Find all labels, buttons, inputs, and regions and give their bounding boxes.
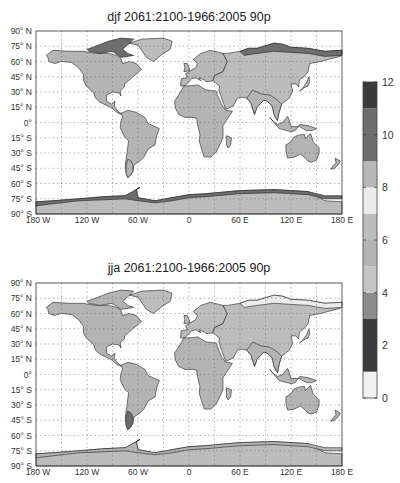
colorbar-band xyxy=(363,240,377,266)
colorbar-tick-label: 0 xyxy=(382,392,388,404)
lat-tick-label: 30° N xyxy=(11,339,32,349)
lon-tick-label: 120 W xyxy=(75,467,100,477)
colorbar-band xyxy=(363,293,377,319)
lat-tick-label: 30° S xyxy=(11,400,32,410)
colorbar-band xyxy=(363,266,377,292)
lat-tick-label: 45° S xyxy=(11,163,32,173)
lon-tick-label: 180 E xyxy=(331,215,354,225)
colorbar-band xyxy=(363,187,377,213)
map-panel-djf: 90° N75° N60° N45° N30° N15° N0°15° S30°… xyxy=(11,26,354,225)
lon-tick-label: 60 E xyxy=(231,215,249,225)
lat-tick-label: 60° N xyxy=(11,57,32,67)
lat-tick-label: 45° N xyxy=(11,324,32,334)
lat-tick-label: 75° S xyxy=(11,194,32,204)
map-panel-jja: 90° N75° N60° N45° N30° N15° N0°15° S30°… xyxy=(11,278,354,477)
lat-tick-label: 60° S xyxy=(11,431,32,441)
lat-tick-label: 0° xyxy=(24,370,32,380)
colorbar-band xyxy=(363,161,377,187)
lat-tick-label: 30° N xyxy=(11,87,32,97)
lat-tick-label: 15° S xyxy=(11,385,32,395)
lat-tick-label: 75° N xyxy=(11,41,32,51)
colorbar-tick-label: 6 xyxy=(382,234,388,246)
lat-tick-label: 75° S xyxy=(11,446,32,456)
lat-tick-label: 60° S xyxy=(11,179,32,189)
lat-tick-label: 45° S xyxy=(11,415,32,425)
lon-tick-label: 0 xyxy=(187,215,192,225)
colorbar-band xyxy=(363,372,377,398)
colorbar: 024681012 xyxy=(363,76,394,404)
lon-tick-label: 60 E xyxy=(231,467,249,477)
lat-tick-label: 15° N xyxy=(11,354,32,364)
colorbar-tick-label: 10 xyxy=(382,129,394,141)
figure-canvas: 90° N75° N60° N45° N30° N15° N0°15° S30°… xyxy=(0,0,400,483)
lat-tick-label: 30° S xyxy=(11,148,32,158)
lat-tick-label: 45° N xyxy=(11,72,32,82)
colorbar-tick-label: 8 xyxy=(382,181,388,193)
lat-tick-label: 0° xyxy=(24,118,32,128)
lon-tick-label: 60 W xyxy=(128,215,148,225)
colorbar-band xyxy=(363,214,377,240)
colorbar-band xyxy=(363,82,377,108)
lat-tick-label: 60° N xyxy=(11,309,32,319)
lon-tick-label: 120 W xyxy=(75,215,100,225)
colorbar-tick-label: 12 xyxy=(382,76,394,88)
lon-tick-label: 180 W xyxy=(26,467,51,477)
lat-tick-label: 75° N xyxy=(11,293,32,303)
lon-tick-label: 180 W xyxy=(26,215,51,225)
colorbar-tick-label: 4 xyxy=(382,287,388,299)
lon-tick-label: 60 W xyxy=(128,467,148,477)
lon-tick-label: 180 E xyxy=(331,467,354,477)
lat-tick-label: 90° N xyxy=(11,26,32,36)
lon-tick-label: 120 E xyxy=(280,467,303,477)
colorbar-tick-label: 2 xyxy=(382,339,388,351)
lon-tick-label: 120 E xyxy=(280,215,303,225)
lon-tick-label: 0 xyxy=(187,467,192,477)
lat-tick-label: 15° N xyxy=(11,102,32,112)
lat-tick-label: 15° S xyxy=(11,133,32,143)
lat-tick-label: 90° N xyxy=(11,278,32,288)
